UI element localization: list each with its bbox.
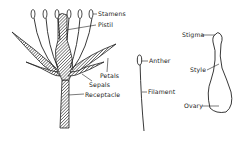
label-receptacle: Receptacle [85,92,120,98]
label-petals: Petals [100,73,119,79]
label-stigma: Stigma [182,32,204,38]
pistil-shape [55,14,72,81]
label-pistil: Pistil [98,22,113,28]
label-stamens: Stamens [98,11,126,17]
flower-diagram [0,0,244,141]
label-anther: Anther [149,58,170,64]
label-sepals: Sepals [89,82,110,88]
stamen-detail-illustration [137,55,148,131]
label-ovary: Ovary [184,103,203,109]
label-filament: Filament [148,89,175,95]
receptacle-stem [60,80,69,128]
whole-flower-illustration [12,14,116,129]
label-style: Style [190,67,206,73]
